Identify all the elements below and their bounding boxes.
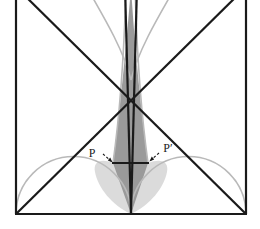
point-label-P-prime: P′ — [163, 141, 173, 155]
geometry-figure: P P′ — [0, 0, 260, 229]
geometry-canvas: P P′ — [0, 0, 260, 229]
point-label-P: P — [89, 146, 96, 160]
